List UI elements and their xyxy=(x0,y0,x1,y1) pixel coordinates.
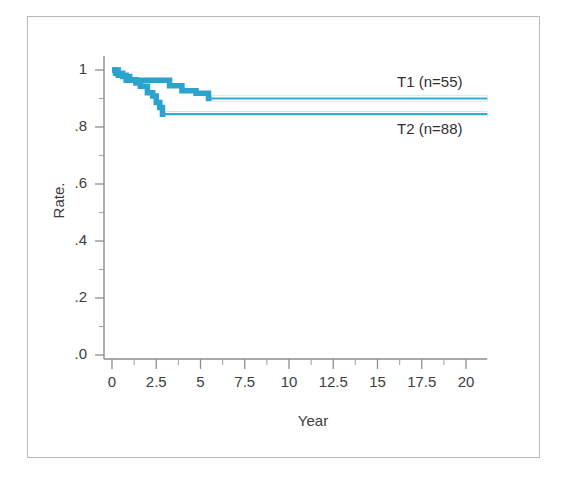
y-tick-label: 1 xyxy=(47,60,87,77)
y-tick-label: .2 xyxy=(47,288,87,305)
y-tick-label: .0 xyxy=(47,345,87,362)
y-axis-title: Rate. xyxy=(50,141,67,261)
figure: .0.2.4.6.81 02.557.51012.51517.520 Year … xyxy=(0,0,566,480)
y-tick-label: .8 xyxy=(47,117,87,134)
x-axis-title: Year xyxy=(253,412,373,429)
legend-label-t2: T2 (n=88) xyxy=(397,120,462,137)
x-tick-label: 20 xyxy=(436,373,496,390)
legend-label-t1: T1 (n=55) xyxy=(397,73,462,90)
